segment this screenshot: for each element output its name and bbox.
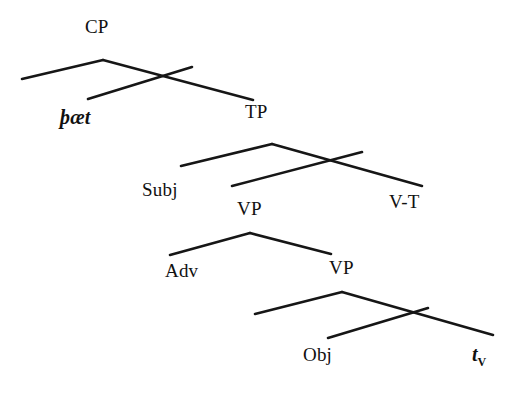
node-v-t: V-T (389, 192, 420, 211)
branch-crossing-to-vp-upper (232, 152, 362, 186)
node-tp: TP (245, 102, 268, 121)
node-adv: Adv (165, 261, 198, 280)
branch-crossing-to-thaet (88, 67, 192, 99)
tree-branches (0, 0, 524, 398)
branch-cp-left (22, 60, 103, 79)
branch-crossing-to-obj (328, 308, 428, 338)
node-vp-upper: VP (237, 199, 262, 218)
branch-vp-left-to-adv (170, 233, 250, 255)
syntax-tree-figure: CP þæt TP Subj V-T VP Adv VP Obj tV (0, 0, 524, 398)
branch-vp-lower-left (255, 292, 342, 314)
branch-cp-right-to-tp (103, 60, 253, 100)
node-vp-lower: VP (329, 258, 354, 277)
node-trace-v: tV (472, 344, 486, 368)
trace-subscript: V (478, 355, 487, 369)
node-obj: Obj (303, 345, 332, 364)
node-thaet: þæt (60, 107, 91, 127)
node-subj: Subj (142, 180, 178, 199)
branch-vp-right-to-vp-lower (250, 233, 331, 254)
branch-vp-lower-right-to-trace (342, 292, 493, 335)
node-cp: CP (85, 17, 109, 36)
branch-tp-right-to-vt (272, 144, 422, 186)
branch-tp-left-to-subj (181, 144, 272, 166)
